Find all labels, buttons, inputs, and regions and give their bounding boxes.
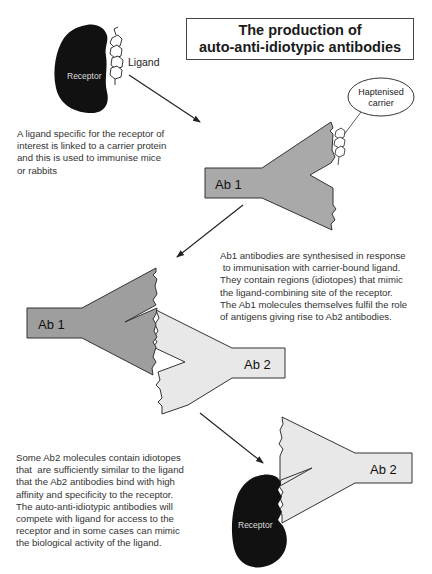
ab1-top-label: Ab 1 [215, 177, 242, 192]
arrow-step1-icon [129, 75, 200, 122]
step3-description: Some Ab2 molecules contain idiotopes tha… [16, 452, 184, 550]
arrow-step3-icon [200, 413, 263, 463]
title-line2: auto-anti-idiotypic antibodies [187, 39, 413, 56]
antibody-ab2-middle: Ab 2 [153, 310, 285, 414]
ab1-middle-label: Ab 1 [38, 317, 65, 332]
receptor-top-label: Receptor [67, 71, 102, 81]
ab2-bottom-label: Ab 2 [370, 462, 397, 477]
hapten-molecule-icon [334, 128, 345, 165]
haptenised-label-line2: carrier [368, 98, 394, 108]
receptor-bottom: Receptor [232, 474, 287, 567]
ligand-molecule-icon [110, 27, 123, 85]
title-line1: The production of [187, 22, 413, 39]
page-title: The production of auto-anti-idiotypic an… [186, 18, 414, 60]
ligand-label: Ligand [128, 56, 160, 68]
haptenised-label-line1: Haptenised [358, 87, 404, 97]
receptor-top: Receptor [54, 24, 107, 113]
antibody-ab1-top: Ab 1 [205, 122, 345, 230]
step2-description: Ab1 antibodies are synthesised in respon… [220, 250, 407, 323]
antibody-ab2-bottom: Ab 2 [279, 417, 412, 523]
receptor-bottom-label: Receptor [238, 520, 273, 530]
step1-description: A ligand specific for the receptor of in… [17, 128, 166, 177]
haptenised-carrier-callout: Haptenised carrier [340, 78, 414, 140]
antibody-ab1-middle: Ab 1 [27, 268, 157, 375]
ab2-middle-label: Ab 2 [244, 357, 271, 372]
receptor-blob-icon [54, 24, 107, 113]
